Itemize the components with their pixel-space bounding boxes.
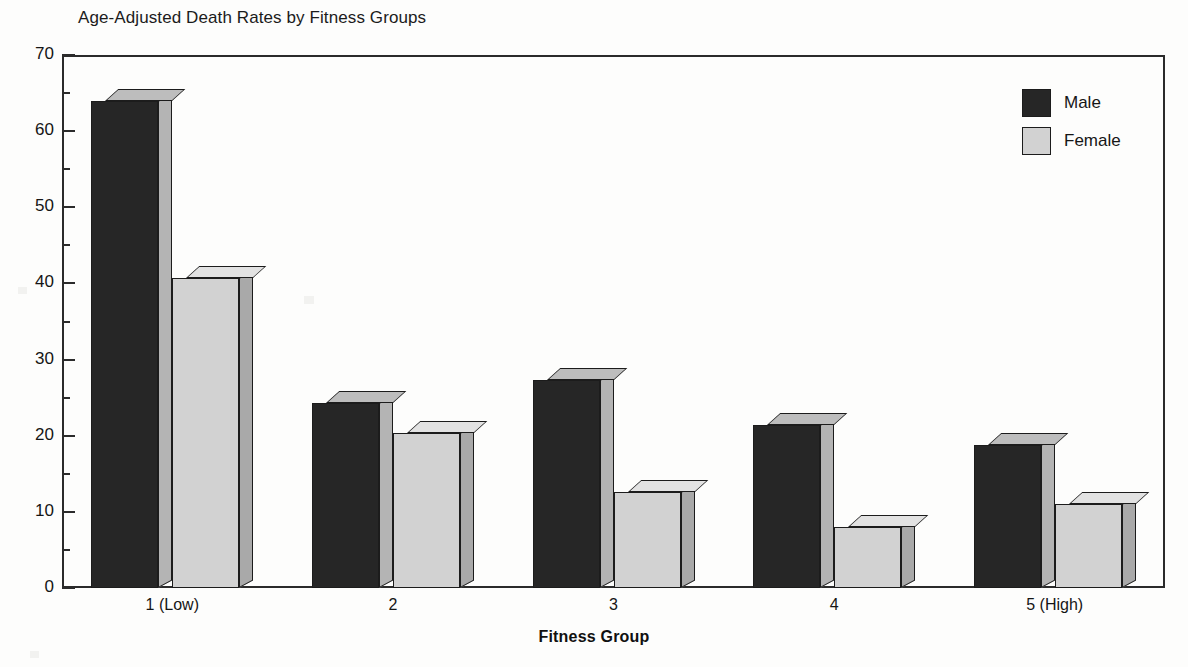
bar-front-face	[91, 101, 158, 588]
y-tick-label: 10	[8, 501, 54, 521]
bar-front-face	[974, 445, 1041, 588]
bar-front-face	[1055, 504, 1122, 588]
legend-label-male: Male	[1064, 93, 1101, 113]
y-tick-major	[62, 54, 75, 56]
bar-male-group-1[interactable]	[91, 89, 172, 588]
bar-top-face	[767, 413, 847, 425]
y-tick-minor	[62, 549, 70, 551]
y-tick-label: 70	[8, 44, 54, 64]
bar-side-face	[239, 271, 253, 588]
y-tick-major	[62, 435, 75, 437]
bar-side-face	[379, 396, 393, 588]
bar-front-face	[753, 425, 820, 588]
legend-label-female: Female	[1064, 131, 1121, 151]
y-tick-major	[62, 511, 75, 513]
y-tick-label: 30	[8, 349, 54, 369]
bar-female-group-1[interactable]	[172, 266, 253, 588]
bar-side-face	[460, 425, 474, 588]
y-tick-label: 40	[8, 272, 54, 292]
bar-front-face	[614, 492, 681, 588]
y-tick-label: 60	[8, 120, 54, 140]
bar-male-group-2[interactable]	[312, 391, 393, 588]
y-tick-minor	[62, 168, 70, 170]
legend-item-female[interactable]: Female	[1022, 122, 1121, 160]
bar-top-face	[186, 266, 266, 278]
bar-side-face	[1122, 497, 1136, 588]
scan-artifact	[30, 651, 39, 658]
y-tick-minor	[62, 473, 70, 475]
bar-female-group-4[interactable]	[834, 515, 915, 588]
bar-front-face	[312, 403, 379, 588]
bar-top-face	[326, 391, 406, 403]
bar-female-group-3[interactable]	[614, 480, 695, 588]
bar-side-face	[820, 418, 834, 588]
y-tick-minor	[62, 321, 70, 323]
bar-front-face	[834, 527, 901, 588]
bar-side-face	[681, 485, 695, 588]
chart-title: Age-Adjusted Death Rates by Fitness Grou…	[78, 8, 426, 28]
bar-female-group-2[interactable]	[393, 421, 474, 588]
x-tick-label-5: 5 (High)	[1026, 596, 1083, 614]
bar-side-face	[901, 520, 915, 588]
bar-side-face	[158, 93, 172, 588]
y-tick-major	[62, 130, 75, 132]
x-axis-title: Fitness Group	[0, 628, 1188, 646]
bar-top-face	[628, 480, 708, 492]
y-tick-major	[62, 587, 75, 589]
chart-legend: Male Female	[1022, 84, 1121, 160]
y-tick-label: 50	[8, 196, 54, 216]
bar-top-face	[1069, 492, 1149, 504]
bar-front-face	[393, 433, 460, 588]
y-tick-label: 0	[8, 577, 54, 597]
y-tick-minor	[62, 397, 70, 399]
male-swatch-icon	[1022, 89, 1051, 117]
bar-chart-figure: Age-Adjusted Death Rates by Fitness Grou…	[0, 0, 1188, 667]
bar-side-face	[600, 373, 614, 588]
bar-male-group-3[interactable]	[533, 368, 614, 588]
bar-male-group-5[interactable]	[974, 433, 1055, 588]
y-tick-minor	[62, 244, 70, 246]
bar-front-face	[172, 278, 239, 588]
bar-male-group-4[interactable]	[753, 413, 834, 588]
legend-item-male[interactable]: Male	[1022, 84, 1121, 122]
bar-top-face	[547, 368, 627, 380]
bar-top-face	[848, 515, 928, 527]
bar-top-face	[988, 433, 1068, 445]
y-tick-major	[62, 206, 75, 208]
x-tick-label-4: 4	[830, 596, 839, 614]
x-tick-label-3: 3	[609, 596, 618, 614]
y-tick-label: 20	[8, 425, 54, 445]
bar-female-group-5[interactable]	[1055, 492, 1136, 588]
bar-front-face	[533, 380, 600, 588]
x-tick-label-1: 1 (Low)	[146, 596, 199, 614]
y-tick-minor	[62, 92, 70, 94]
bar-top-face	[407, 421, 487, 433]
y-tick-major	[62, 282, 75, 284]
bar-top-face	[105, 89, 185, 101]
bar-side-face	[1041, 437, 1055, 588]
female-swatch-icon	[1022, 127, 1051, 155]
y-tick-major	[62, 359, 75, 361]
x-tick-label-2: 2	[388, 596, 397, 614]
